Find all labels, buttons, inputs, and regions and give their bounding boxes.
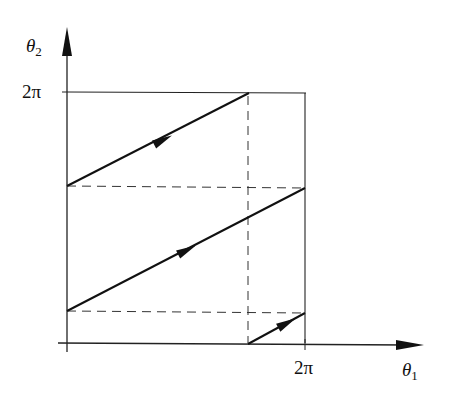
x-axis-symbol: θ bbox=[402, 359, 411, 380]
trajectory bbox=[67, 93, 305, 344]
y-axis-subscript: 2 bbox=[35, 44, 42, 59]
x-axis-arrowhead-icon bbox=[396, 340, 424, 350]
y-axis-symbol: θ bbox=[26, 35, 35, 56]
x-axis bbox=[58, 343, 408, 345]
dashed-guides bbox=[67, 96, 305, 343]
x-axis-label: θ1 bbox=[402, 360, 418, 382]
x-tick-label-text: 2π bbox=[294, 357, 313, 378]
trajectory-segment-3 bbox=[248, 313, 305, 344]
x-axis-subscript: 1 bbox=[411, 368, 418, 383]
dashed-horizontal-upper bbox=[67, 186, 305, 188]
fundamental-domain bbox=[67, 92, 306, 343]
y-tick-label: 2π bbox=[22, 82, 41, 101]
axes bbox=[58, 27, 424, 352]
y-axis-arrowhead-icon bbox=[62, 27, 72, 56]
phase-diagram bbox=[0, 0, 474, 401]
y-tick-label-text: 2π bbox=[22, 81, 41, 102]
y-axis-label: θ2 bbox=[26, 36, 42, 58]
top-boundary bbox=[67, 92, 306, 93]
x-tick-label: 2π bbox=[294, 358, 313, 377]
dashed-horizontal-lower bbox=[67, 311, 305, 313]
arrow-icon-segment-3 bbox=[276, 314, 298, 331]
direction-arrows bbox=[152, 131, 298, 331]
